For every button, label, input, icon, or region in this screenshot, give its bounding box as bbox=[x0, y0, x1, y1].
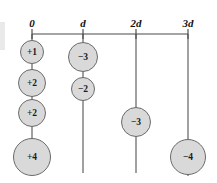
charges-group: +1+2+2+4−3−2−3−4 bbox=[14, 41, 206, 176]
charge-label-column-0-0: +1 bbox=[27, 47, 37, 57]
charge-label-column-3d-0: −4 bbox=[183, 152, 193, 162]
charge-label-column-0-3: +4 bbox=[27, 152, 37, 162]
axis-tick-label-3d: 3d bbox=[182, 17, 195, 29]
charge-label-column-0-1: +2 bbox=[27, 78, 37, 88]
axis-tick-label-0: 0 bbox=[29, 17, 35, 29]
charge-label-column-d-0: −3 bbox=[78, 52, 88, 62]
drop-lines-group bbox=[32, 34, 188, 176]
charge-label-column-0-2: +2 bbox=[27, 108, 37, 118]
axis-tick-label-d: d bbox=[80, 17, 86, 29]
charge-diagram-figure: +1+2+2+4−3−2−3−4 0d2d3d bbox=[0, 0, 217, 183]
charge-label-column-d-1: −2 bbox=[78, 84, 88, 94]
axis-group bbox=[32, 29, 188, 39]
axis-tick-labels-group: 0d2d3d bbox=[29, 17, 194, 29]
axis-tick-label-2d: 2d bbox=[130, 17, 143, 29]
charge-diagram-canvas: +1+2+2+4−3−2−3−4 0d2d3d bbox=[0, 0, 217, 183]
charge-label-column-2d-0: −3 bbox=[131, 117, 141, 127]
